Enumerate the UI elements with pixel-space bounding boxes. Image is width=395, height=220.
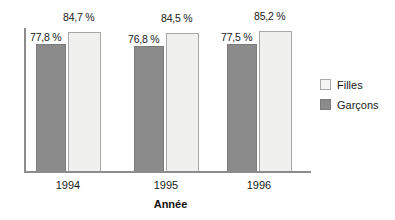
bar-value-filles-1995: 84,5 % [161, 12, 193, 24]
dark-square-swatch-icon [320, 99, 331, 110]
x-axis-title-text: Année [154, 198, 188, 210]
x-axis-title: Année [0, 198, 395, 210]
bar-garcons-1994[interactable] [36, 44, 66, 172]
legend-item-filles[interactable]: Filles [320, 76, 379, 93]
x-tick-label-1995: 1995 [136, 179, 196, 191]
bar-garcons-1996[interactable] [227, 44, 257, 172]
x-tick-label-1994: 1994 [38, 179, 98, 191]
bar-value-garcons-1994: 77,8 % [30, 31, 62, 43]
light-square-swatch-icon [320, 79, 331, 90]
bar-filles-1996[interactable] [259, 31, 292, 172]
bar-filles-1994[interactable] [68, 32, 101, 172]
bar-chart: 77,8 % 84,7 % 76,8 % 84,5 % 77,5 % 85,2 … [0, 0, 395, 220]
legend: Filles Garçons [320, 76, 379, 116]
y-axis-line [24, 28, 26, 173]
bar-garcons-1995[interactable] [134, 46, 164, 172]
bar-filles-1995[interactable] [166, 33, 199, 172]
legend-label-garcons: Garçons [337, 99, 379, 111]
bar-value-garcons-1996: 77,5 % [221, 31, 253, 43]
bar-value-filles-1994: 84,7 % [63, 11, 95, 23]
x-tick-label-1996: 1996 [229, 179, 289, 191]
legend-label-filles: Filles [337, 79, 363, 91]
legend-item-garcons[interactable]: Garçons [320, 96, 379, 113]
bar-value-filles-1996: 85,2 % [254, 10, 286, 22]
bar-value-garcons-1995: 76,8 % [128, 33, 160, 45]
x-axis-line [24, 171, 311, 173]
